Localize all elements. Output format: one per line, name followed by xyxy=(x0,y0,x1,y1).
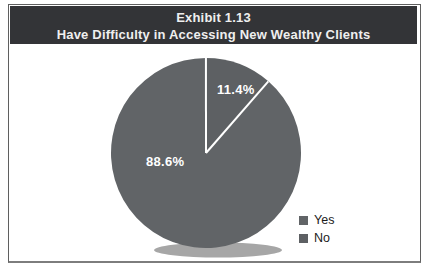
legend-label-yes: Yes xyxy=(314,214,334,227)
legend-swatch-no xyxy=(299,234,308,243)
pie-label-no: 11.4% xyxy=(217,82,255,97)
legend: Yes No xyxy=(299,214,334,245)
pie-chart-svg xyxy=(0,0,427,269)
legend-item-yes: Yes xyxy=(299,214,334,227)
exhibit-figure: Exhibit 1.13 Have Difficulty in Accessin… xyxy=(0,0,427,269)
legend-item-no: No xyxy=(299,232,334,245)
legend-swatch-yes xyxy=(299,216,308,225)
legend-label-no: No xyxy=(314,232,330,245)
pie-label-yes: 88.6% xyxy=(146,154,184,169)
